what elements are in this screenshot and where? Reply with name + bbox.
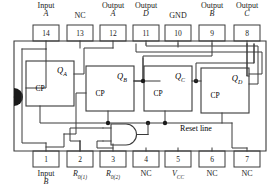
reset-line-annotation: Reset line xyxy=(180,124,212,133)
pin-number-11: 11 xyxy=(142,29,149,38)
ff-c-clock-label: CP xyxy=(153,89,162,98)
pin-number-14: 14 xyxy=(42,29,50,38)
ff-a-clock-label: CP xyxy=(35,84,44,93)
pin-7-label-line1: NC xyxy=(241,169,252,178)
pin-number-5: 5 xyxy=(176,155,180,164)
pin-4-label-line1: NC xyxy=(140,169,151,178)
pin-number-4: 4 xyxy=(144,155,148,164)
pin-14-label-line2: A xyxy=(44,9,49,18)
and-gate-reset xyxy=(103,124,148,145)
pin-number-2: 2 xyxy=(78,155,82,164)
pin-8-label-line2: C xyxy=(244,9,249,18)
ff-b-output-label: QB xyxy=(117,71,127,83)
pin-number-1: 1 xyxy=(44,155,48,164)
pin-12-label-line2: A xyxy=(111,9,116,18)
ff-d-clock-label: CP xyxy=(210,91,219,100)
pin-13-label-line1: NC xyxy=(74,11,85,20)
pin-10-label-line1: GND xyxy=(169,11,186,20)
pin-2-label-sub: 0(1) xyxy=(78,174,87,180)
ff-b-clock-label: CP xyxy=(95,89,104,98)
pin-number-12: 12 xyxy=(109,29,117,38)
pin-number-9: 9 xyxy=(210,29,214,38)
wires-qb-clock-c xyxy=(134,79,145,83)
pin-9-label-line2: B xyxy=(210,9,215,18)
pin-number-10: 10 xyxy=(174,29,182,38)
ff-a-output-label: QA xyxy=(57,65,67,77)
pin-number-3: 3 xyxy=(111,155,115,164)
pin-11-label-line2: D xyxy=(143,9,149,18)
pin-number-7: 7 xyxy=(245,155,249,164)
pin-1-label-line2: B xyxy=(44,177,49,186)
ff-d-output-label: QD xyxy=(232,73,242,85)
ff-c-output-label: QC xyxy=(175,71,185,83)
pin-6-label-line1: NC xyxy=(206,169,217,178)
ic-pinout-diagram: .wire { stroke:#3a3a3a; stroke-width:1; … xyxy=(0,0,280,192)
pin-number-8: 8 xyxy=(245,29,249,38)
pin-number-13: 13 xyxy=(76,29,84,38)
wires-pin-stems-bottom xyxy=(46,141,247,151)
pin-5-label-sub: CC xyxy=(177,174,184,180)
pin-number-6: 6 xyxy=(210,155,214,164)
pin-3-label-sub: 0(2) xyxy=(111,174,120,180)
